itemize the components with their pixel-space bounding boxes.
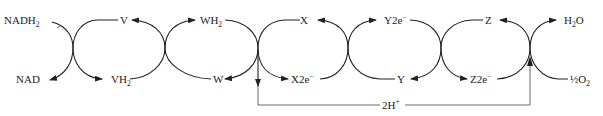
redox-node-3 — [225, 20, 300, 86]
redox-chain-diagram: NADH2 V WH2 X Y2e− Z H2O NAD VH2 W X2e− … — [0, 0, 603, 116]
label-wh2: WH2 — [200, 14, 222, 29]
label-y: Y — [397, 73, 405, 85]
label-z: Z — [485, 14, 492, 26]
label-2h-plus: 2H+ — [382, 97, 400, 111]
label-vh2: VH2 — [111, 73, 131, 88]
redox-node-5 — [410, 20, 483, 79]
label-h2o: H2O — [564, 14, 584, 29]
label-w: W — [213, 73, 224, 85]
label-v: V — [120, 14, 128, 26]
redox-node-4 — [318, 20, 395, 79]
label-half-o2: ½O2 — [570, 73, 590, 88]
label-x2e: X2e− — [291, 72, 314, 85]
label-nadh2: NADH2 — [4, 14, 40, 29]
label-nad: NAD — [16, 73, 40, 85]
redox-node-2 — [130, 20, 211, 79]
redox-node-6 — [497, 20, 568, 79]
redox-node-1 — [50, 20, 118, 80]
label-x: X — [300, 14, 308, 26]
label-z2e: Z2e− — [470, 72, 491, 85]
label-y2e: Y2e− — [384, 13, 407, 26]
